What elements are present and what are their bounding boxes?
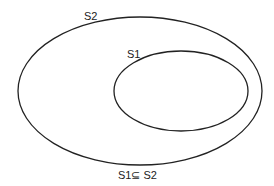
venn-diagram: S2 S1 S1⊆ S2 — [0, 0, 274, 186]
set-s2-label: S2 — [84, 10, 97, 22]
set-s1-label: S1 — [127, 48, 140, 60]
set-s1-ellipse — [114, 51, 248, 131]
subset-caption: S1⊆ S2 — [118, 169, 157, 181]
set-s2-ellipse — [18, 17, 262, 165]
